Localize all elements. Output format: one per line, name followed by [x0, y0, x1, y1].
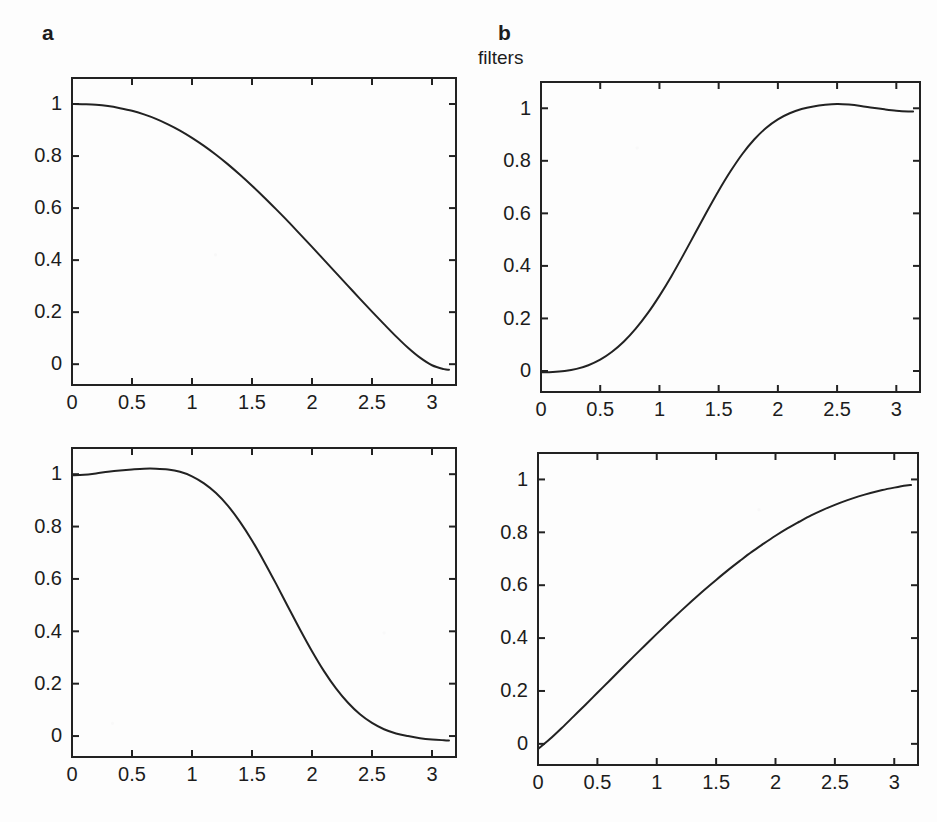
y-tick-label: 0 [51, 724, 62, 746]
y-tick-label: 0.6 [503, 202, 531, 224]
y-tick-label: 0.8 [34, 515, 62, 537]
y-tick-label: 0.6 [500, 573, 528, 595]
axes-b-top: 00.511.522.5300.20.40.60.81 [503, 82, 920, 420]
axes-a-bottom: 00.511.522.5300.20.40.60.81 [34, 448, 456, 785]
plot-svg-b-top: 00.511.522.5300.20.40.60.81 [466, 4, 937, 424]
y-tick-label: 0.6 [34, 196, 62, 218]
filters-figure: a b filters 00.511.522.5300.20.40.60.81 … [0, 0, 937, 822]
plot-svg-a-top: 00.511.522.5300.20.40.60.81 [0, 0, 480, 420]
x-tick-label: 1 [186, 763, 197, 785]
x-tick-label: 0.5 [118, 763, 146, 785]
axes-a-top: 00.511.522.5300.20.40.60.81 [34, 78, 456, 413]
plot-svg-a-bottom: 00.511.522.5300.20.40.60.81 [0, 370, 480, 822]
x-tick-label: 1 [651, 771, 662, 793]
plot-frame [541, 82, 920, 392]
x-tick-label: 0.5 [583, 771, 611, 793]
x-tick-label: 1.5 [238, 763, 266, 785]
y-tick-label: 0.2 [34, 300, 62, 322]
y-tick-label: 1 [520, 97, 531, 119]
x-tick-label: 2 [770, 771, 781, 793]
y-tick-label: 0.8 [503, 149, 531, 171]
y-tick-label: 0.6 [34, 567, 62, 589]
plot-panel-b-top: 00.511.522.5300.20.40.60.81 [466, 4, 937, 424]
y-tick-label: 0.4 [500, 626, 528, 648]
x-tick-label: 1.5 [702, 771, 730, 793]
y-tick-label: 1 [51, 92, 62, 114]
y-tick-label: 0.8 [500, 521, 528, 543]
x-tick-label: 2.5 [358, 763, 386, 785]
y-tick-label: 0.2 [34, 672, 62, 694]
data-curve [538, 485, 911, 749]
y-tick-label: 0.4 [503, 254, 531, 276]
y-tick-label: 1 [517, 468, 528, 490]
y-tick-label: 0.2 [500, 679, 528, 701]
y-tick-label: 1 [51, 462, 62, 484]
plot-frame [72, 448, 456, 757]
x-tick-label: 3 [426, 763, 437, 785]
data-curve [72, 104, 449, 370]
plot-frame [538, 453, 918, 765]
x-tick-label: 0 [66, 763, 77, 785]
y-tick-label: 0.4 [34, 620, 62, 642]
y-tick-label: 0 [517, 732, 528, 754]
x-tick-label: 2 [306, 763, 317, 785]
data-curve [541, 104, 913, 372]
plot-panel-a-bottom: 00.511.522.5300.20.40.60.81 [0, 370, 480, 822]
plot-panel-b-bottom: 00.511.522.5300.20.40.60.81 [466, 378, 937, 822]
data-curve [72, 469, 449, 741]
y-tick-label: 0.4 [34, 248, 62, 270]
x-tick-label: 0 [532, 771, 543, 793]
plot-svg-b-bottom: 00.511.522.5300.20.40.60.81 [466, 378, 937, 822]
x-tick-label: 3 [889, 771, 900, 793]
plot-panel-a-top: 00.511.522.5300.20.40.60.81 [0, 0, 480, 420]
y-tick-label: 0.8 [34, 144, 62, 166]
axes-b-bottom: 00.511.522.5300.20.40.60.81 [500, 453, 918, 793]
x-tick-label: 2.5 [821, 771, 849, 793]
y-tick-label: 0.2 [503, 307, 531, 329]
